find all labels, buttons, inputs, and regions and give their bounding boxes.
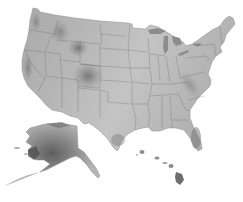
niihau-island xyxy=(136,154,138,156)
alaska-inset xyxy=(4,122,100,186)
molokai-island xyxy=(163,162,168,164)
hawaii-inset xyxy=(136,150,184,185)
relief-florida xyxy=(191,127,201,149)
alaska-island xyxy=(14,147,20,149)
oahu-island xyxy=(155,157,160,160)
big-island-hawaii xyxy=(175,172,184,185)
us-relief-map xyxy=(0,0,243,202)
relief-sierra-nevada xyxy=(23,54,33,82)
kauai-island xyxy=(140,150,145,154)
relief-south-texas xyxy=(111,134,125,146)
relief-cascades xyxy=(31,12,41,32)
map-canvas xyxy=(0,0,243,202)
alaska-island xyxy=(24,153,28,155)
relief-colorado-rockies xyxy=(72,62,104,90)
aleutian-islands xyxy=(4,172,40,186)
relief-northern-rockies xyxy=(50,20,70,44)
maui-island xyxy=(169,164,174,168)
